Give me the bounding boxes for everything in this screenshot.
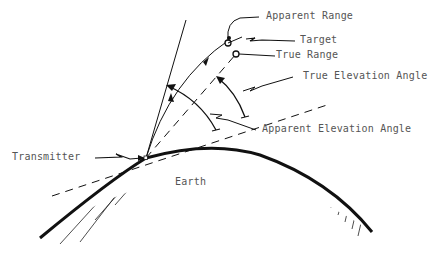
true-elevation-leader [243,77,293,91]
label-true-range: True Range [276,49,338,60]
true-line-of-sight [146,54,236,158]
apparent-elevation-leader [210,114,256,130]
true-range-leader [239,54,275,56]
apparent-arc-arrowhead [166,84,176,91]
earth-hatching [60,147,361,244]
label-true-elevation-angle: True Elevation Angle [303,70,427,81]
true-elevation-arc [218,78,245,117]
target-leader [246,38,295,41]
label-earth: Earth [175,176,206,187]
true-range-marker [233,51,239,57]
earth-surface [40,148,372,238]
transmitter-marker [144,156,148,160]
label-transmitter: Transmitter [12,151,80,162]
transmitter-leader [95,154,142,159]
apparent-direction-line [146,20,186,158]
apparent-range-leader [228,17,259,40]
apparent-elevation-arc [168,86,216,130]
refraction-diagram: Apparent Range Target True Range True El… [0,0,448,254]
refracted-ray [146,40,229,158]
label-target: Target [300,34,337,45]
label-apparent-range: Apparent Range [266,10,353,21]
label-apparent-elevation-angle: Apparent Elevation Angle [262,123,411,134]
